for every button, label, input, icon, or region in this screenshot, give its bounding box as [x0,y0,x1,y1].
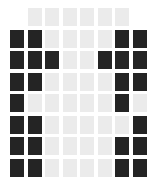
dark-cell[interactable] [28,73,42,91]
dark-cell[interactable] [115,137,129,155]
light-cell[interactable] [80,30,94,48]
dark-cell[interactable] [115,51,129,69]
dark-cell[interactable] [115,159,129,177]
light-cell[interactable] [98,116,112,134]
dark-cell[interactable] [115,30,129,48]
light-cell[interactable] [98,137,112,155]
dark-cell[interactable] [115,94,129,112]
light-cell[interactable] [80,116,94,134]
light-cell[interactable] [115,8,129,26]
dark-cell[interactable] [28,159,42,177]
light-cell[interactable] [98,73,112,91]
dark-cell[interactable] [28,116,42,134]
light-cell[interactable] [63,8,77,26]
dark-cell[interactable] [133,51,147,69]
light-cell[interactable] [45,159,59,177]
light-cell[interactable] [63,159,77,177]
dark-cell[interactable] [28,30,42,48]
light-cell[interactable] [80,73,94,91]
dark-cell[interactable] [133,73,147,91]
light-cell[interactable] [45,8,59,26]
light-cell[interactable] [63,73,77,91]
dark-cell[interactable] [133,116,147,134]
light-cell[interactable] [115,116,129,134]
dark-cell[interactable] [133,159,147,177]
dark-cell[interactable] [45,51,59,69]
light-cell[interactable] [98,159,112,177]
dark-cell[interactable] [28,137,42,155]
dark-cell[interactable] [10,94,24,112]
light-cell[interactable] [98,30,112,48]
light-cell[interactable] [45,94,59,112]
light-cell[interactable] [98,8,112,26]
dark-cell[interactable] [10,116,24,134]
light-cell[interactable] [80,8,94,26]
light-cell[interactable] [45,137,59,155]
light-cell[interactable] [80,159,94,177]
pixel-grid [10,8,146,178]
light-cell[interactable] [80,137,94,155]
light-cell[interactable] [63,51,77,69]
light-cell[interactable] [45,30,59,48]
light-cell[interactable] [80,51,94,69]
dark-cell[interactable] [98,51,112,69]
dark-cell[interactable] [133,30,147,48]
dark-cell[interactable] [10,159,24,177]
dark-cell[interactable] [28,51,42,69]
light-cell[interactable] [45,116,59,134]
light-cell[interactable] [28,94,42,112]
dark-cell[interactable] [10,51,24,69]
light-cell[interactable] [28,8,42,26]
light-cell[interactable] [45,73,59,91]
dark-cell[interactable] [10,137,24,155]
dark-cell[interactable] [10,30,24,48]
light-cell[interactable] [63,94,77,112]
dark-cell[interactable] [133,137,147,155]
light-cell[interactable] [63,137,77,155]
light-cell[interactable] [63,116,77,134]
light-cell[interactable] [80,94,94,112]
dark-cell[interactable] [115,73,129,91]
dark-cell[interactable] [10,73,24,91]
light-cell[interactable] [63,30,77,48]
light-cell[interactable] [133,94,147,112]
light-cell[interactable] [98,94,112,112]
